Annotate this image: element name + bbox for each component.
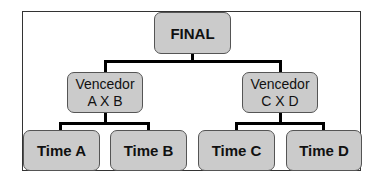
connector-final-horizontal: [104, 60, 282, 63]
node-semifinal-cd-line2: C X D: [261, 93, 298, 110]
connector-to-team-d: [322, 122, 325, 130]
node-final: FINAL: [154, 12, 231, 54]
node-semifinal-cd-line1: Vencedor: [250, 76, 309, 93]
node-team-a-label: Time A: [37, 142, 86, 159]
connector-to-team-a: [59, 122, 62, 130]
node-semifinal-ab-line1: Vencedor: [75, 76, 134, 93]
connector-to-team-c: [235, 122, 238, 130]
node-team-d-label: Time D: [299, 142, 349, 159]
node-final-label: FINAL: [170, 25, 214, 42]
node-team-d: Time D: [286, 130, 362, 171]
connector-to-team-b: [147, 122, 150, 130]
node-team-c: Time C: [198, 130, 275, 171]
node-team-c-label: Time C: [212, 142, 262, 159]
node-team-b-label: Time B: [124, 142, 174, 159]
node-semifinal-cd: Vencedor C X D: [242, 72, 318, 113]
node-semifinal-ab-line2: A X B: [87, 93, 122, 110]
connector-semifinal-cd-horizontal: [235, 122, 325, 125]
node-team-a: Time A: [23, 130, 100, 171]
node-semifinal-ab: Vencedor A X B: [67, 72, 143, 113]
connector-to-semifinal-ab: [104, 60, 107, 72]
connector-to-semifinal-cd: [279, 60, 282, 72]
connector-semifinal-ab-horizontal: [59, 122, 150, 125]
node-team-b: Time B: [110, 130, 187, 171]
